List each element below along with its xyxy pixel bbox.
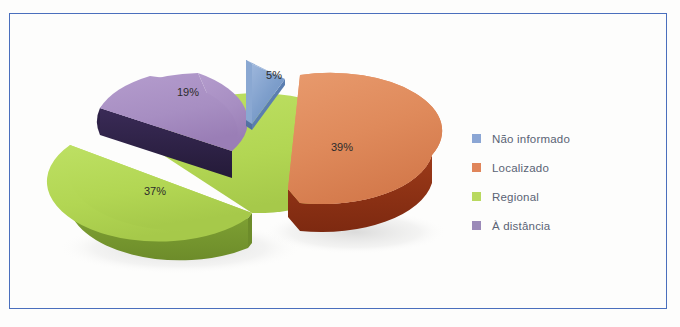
legend-item-a-distancia[interactable]: À distância: [472, 211, 642, 240]
legend-item-nao-informado[interactable]: Não informado: [472, 124, 642, 153]
legend-swatch-icon: [472, 192, 481, 201]
slice-label-localizado: 39%: [331, 141, 353, 153]
scanned-page: 5% 19% 37% 39% Não informado Localizado …: [0, 0, 680, 327]
legend-item-label: Regional: [492, 191, 539, 203]
slice-label-nao-informado: 5%: [266, 69, 282, 81]
slice-label-regional: 37%: [144, 185, 166, 197]
pie-slice-localizado: [288, 73, 442, 232]
legend-item-label: Não informado: [492, 133, 570, 145]
legend-swatch-icon: [472, 163, 481, 172]
legend-item-label: À distância: [492, 220, 550, 232]
pie-slice-a-distancia: [97, 73, 248, 178]
legend-item-localizado[interactable]: Localizado: [472, 153, 642, 182]
chart-legend: Não informado Localizado Regional À dist…: [472, 124, 642, 240]
legend-swatch-icon: [472, 221, 481, 230]
legend-item-regional[interactable]: Regional: [472, 182, 642, 211]
slice-label-a-distancia: 19%: [177, 86, 199, 98]
legend-item-label: Localizado: [492, 162, 549, 174]
legend-swatch-icon: [472, 134, 481, 143]
